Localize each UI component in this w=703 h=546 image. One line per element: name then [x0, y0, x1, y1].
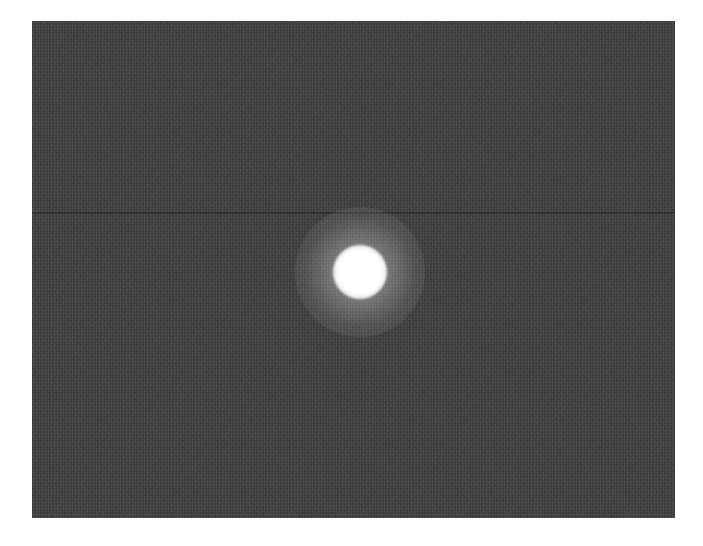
light-spot-core — [333, 245, 387, 299]
photo-frame — [32, 21, 675, 518]
